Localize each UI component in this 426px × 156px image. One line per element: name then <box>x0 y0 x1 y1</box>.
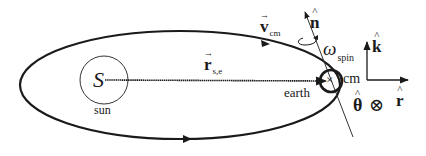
spin-axis-label: ^ n <box>310 14 319 31</box>
orbit-diagram: S sun → r s,e → v cm ^ n ωspin × cm eart… <box>0 0 426 156</box>
spin-rotation-icon <box>298 38 316 45</box>
earth-label: earth <box>284 86 310 99</box>
spin-rate-label: ωspin <box>323 39 354 63</box>
earth-center-marker: × <box>326 73 333 86</box>
velocity-vector-label: → v cm <box>260 18 281 38</box>
hat-icon: ^ <box>372 30 381 41</box>
sun-symbol: S <box>93 69 104 91</box>
k-axis-label: ^ k <box>372 38 381 55</box>
r-hat-symbol: ^ r <box>396 92 404 109</box>
omega-symbol: ω <box>323 38 336 59</box>
vector-arrow-icon: → <box>260 11 269 20</box>
velocity-vector-symbol: → v <box>260 18 269 35</box>
theta-axis-label: ^ θ ⊗ <box>353 96 384 114</box>
hat-icon: ^ <box>396 84 404 95</box>
sun-label: sun <box>94 104 111 116</box>
into-page-icon: ⊗ <box>369 95 384 115</box>
n-hat-symbol: ^ n <box>310 14 319 31</box>
k-hat-symbol: ^ k <box>372 38 381 55</box>
position-vector-label: → r s,e <box>204 56 222 76</box>
position-vector-subscript: s,e <box>213 66 223 76</box>
r-axis-label: ^ r <box>396 92 404 109</box>
cm-label: cm <box>343 72 360 86</box>
theta-hat-symbol: ^ θ <box>353 96 362 114</box>
position-vector-line <box>105 80 326 81</box>
omega-subscript: spin <box>337 52 354 63</box>
position-vector-symbol: → r <box>204 56 212 73</box>
velocity-vector-subscript: cm <box>270 28 281 38</box>
orbit-arrow-bottom <box>183 135 192 143</box>
hat-icon: ^ <box>353 88 362 99</box>
hat-icon: ^ <box>310 6 319 17</box>
diagram-canvas <box>0 0 426 156</box>
vector-arrow-icon: → <box>204 49 212 58</box>
